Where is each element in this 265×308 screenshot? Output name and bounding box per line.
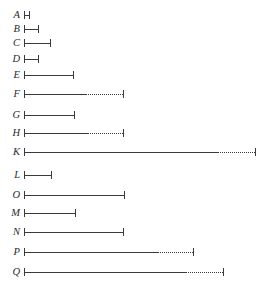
range-bar-solid: [24, 115, 74, 116]
chart-row: P: [0, 245, 265, 259]
range-end-cap: [124, 191, 125, 199]
row-label-q: Q: [0, 265, 20, 279]
chart-row: Q: [0, 265, 265, 279]
range-bar-solid: [24, 75, 73, 76]
range-bar-solid: [24, 94, 86, 95]
range-end-cap: [123, 228, 124, 236]
row-label-e: E: [0, 68, 20, 82]
range-end-cap: [51, 171, 52, 179]
row-label-o: O: [0, 188, 20, 202]
row-label-g: G: [0, 108, 20, 122]
range-bar-dotted: [86, 94, 123, 95]
range-bar-solid: [24, 213, 75, 214]
range-end-cap: [38, 55, 39, 63]
range-end-cap: [123, 129, 124, 137]
row-label-h: H: [0, 126, 20, 140]
range-bar-solid: [24, 252, 157, 253]
range-bar-solid: [24, 43, 50, 44]
range-bar-solid: [24, 59, 38, 60]
chart-row: L: [0, 168, 265, 182]
range-end-cap: [75, 209, 76, 217]
row-label-n: N: [0, 225, 20, 239]
chart-row: A: [0, 8, 265, 22]
chart-row: E: [0, 68, 265, 82]
chart-row: N: [0, 225, 265, 239]
range-end-cap: [38, 25, 39, 33]
chart-row: G: [0, 108, 265, 122]
range-bar-chart: ABCDEFGHKLOMNPQ: [0, 0, 265, 308]
range-bar-solid: [24, 195, 124, 196]
chart-row: F: [0, 87, 265, 101]
chart-row: M: [0, 206, 265, 220]
range-bar-solid: [24, 152, 218, 153]
range-end-cap: [50, 39, 51, 47]
chart-row: B: [0, 22, 265, 36]
range-bar-solid: [24, 29, 38, 30]
chart-row: D: [0, 52, 265, 66]
chart-row: H: [0, 126, 265, 140]
row-label-f: F: [0, 87, 20, 101]
range-bar-dotted: [157, 252, 193, 253]
range-end-cap: [123, 90, 124, 98]
range-end-cap: [74, 111, 75, 119]
row-label-b: B: [0, 22, 20, 36]
row-label-k: K: [0, 145, 20, 159]
row-label-l: L: [0, 168, 20, 182]
range-bar-solid: [24, 272, 185, 273]
row-label-d: D: [0, 52, 20, 66]
range-end-cap: [29, 11, 30, 19]
row-label-c: C: [0, 36, 20, 50]
range-bar-dotted: [185, 272, 223, 273]
range-end-cap: [255, 148, 256, 156]
chart-row: O: [0, 188, 265, 202]
row-label-p: P: [0, 245, 20, 259]
row-label-m: M: [0, 206, 20, 220]
row-label-a: A: [0, 8, 20, 22]
range-bar-dotted: [218, 152, 255, 153]
range-end-cap: [73, 71, 74, 79]
range-bar-dotted: [87, 133, 123, 134]
range-end-cap: [193, 248, 194, 256]
range-bar-solid: [24, 232, 123, 233]
range-bar-solid: [24, 175, 51, 176]
range-bar-solid: [24, 133, 87, 134]
range-end-cap: [223, 268, 224, 276]
chart-row: C: [0, 36, 265, 50]
chart-row: K: [0, 145, 265, 159]
